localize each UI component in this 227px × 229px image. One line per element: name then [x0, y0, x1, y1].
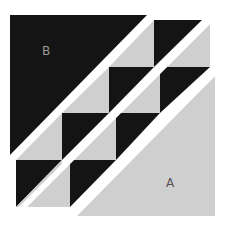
label-a: A: [166, 176, 175, 190]
label-b: B: [42, 44, 50, 58]
quilt-block-diagram: B A: [0, 0, 227, 229]
